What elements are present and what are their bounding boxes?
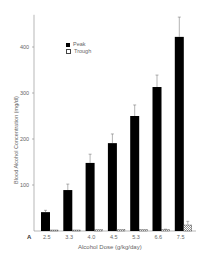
trough-bar — [50, 230, 58, 231]
y-tick-label: 200 — [20, 136, 29, 142]
x-tick-label: 5.3 — [132, 234, 140, 240]
trough-bar — [184, 225, 192, 231]
peak-bar — [63, 190, 72, 231]
peak-bar — [108, 143, 117, 231]
peak-bar — [86, 163, 95, 231]
x-tick-label: 4.0 — [88, 234, 96, 240]
x-tick-label: 6.6 — [155, 234, 163, 240]
trough-bar — [95, 230, 103, 231]
trough-swatch-icon — [66, 49, 71, 54]
bar-chart — [0, 0, 209, 261]
peak-swatch-icon — [66, 43, 70, 47]
trough-bar — [72, 230, 80, 231]
trough-bar — [117, 230, 125, 231]
legend-item-peak: Peak — [66, 41, 86, 47]
peak-bar — [130, 116, 139, 231]
x-axis-label: Alcohol Dose (g/kg/day) — [78, 244, 142, 250]
peak-bar — [153, 87, 162, 231]
peak-bar — [175, 37, 184, 231]
peak-bar — [41, 212, 50, 231]
x-tick-label: 3.3 — [65, 234, 73, 240]
panel-label: A — [27, 234, 31, 240]
bars — [41, 17, 192, 231]
y-axis-label: Blood Alcohol Concentration (mg/dl) — [13, 96, 19, 184]
trough-bar — [162, 230, 170, 231]
x-tick-label: 4.5 — [110, 234, 118, 240]
y-tick-label: 300 — [20, 90, 29, 96]
trough-bar — [139, 230, 147, 231]
y-tick-label: 400 — [20, 44, 29, 50]
y-tick-label: 100 — [20, 182, 29, 188]
x-tick-label: 2.5 — [43, 234, 51, 240]
x-tick-label: 7.5 — [177, 234, 185, 240]
legend-item-trough: Trough — [66, 48, 91, 54]
